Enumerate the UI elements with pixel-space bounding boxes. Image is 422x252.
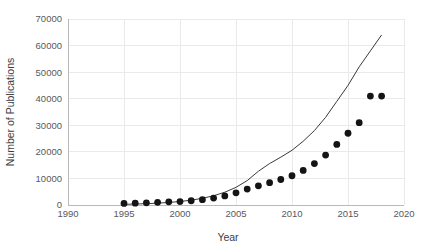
- y-tick-label: 30000: [36, 120, 62, 131]
- x-tick-label: 2015: [337, 208, 358, 219]
- data-point: [233, 189, 240, 196]
- y-tick-label: 70000: [36, 13, 62, 24]
- data-point: [244, 186, 251, 193]
- data-point: [199, 196, 206, 203]
- data-point: [289, 172, 296, 179]
- data-point: [266, 179, 273, 186]
- x-tick-label: 2005: [225, 208, 246, 219]
- data-point: [188, 197, 195, 204]
- data-point: [132, 200, 139, 207]
- y-tick-label: 10000: [36, 173, 62, 184]
- data-point: [221, 193, 228, 200]
- x-tick-label: 1995: [113, 208, 134, 219]
- data-point: [356, 119, 363, 126]
- data-point: [165, 198, 172, 205]
- data-point: [311, 160, 318, 167]
- x-tick-label: 2020: [393, 208, 414, 219]
- data-point: [333, 141, 340, 148]
- x-axis-title: Year: [217, 231, 239, 243]
- x-tick-label: 1990: [57, 208, 78, 219]
- y-tick-label: 40000: [36, 93, 62, 104]
- data-point: [322, 152, 329, 159]
- data-point: [121, 200, 128, 207]
- data-point: [345, 130, 352, 137]
- publications-scatter-chart: 010000200003000040000500006000070000 199…: [0, 0, 422, 252]
- data-point: [154, 199, 161, 206]
- data-point: [378, 93, 385, 100]
- x-tick-label: 2000: [169, 208, 190, 219]
- data-point: [210, 195, 217, 202]
- data-point: [367, 93, 374, 100]
- chart-figure: 010000200003000040000500006000070000 199…: [0, 0, 422, 252]
- data-point: [255, 182, 262, 189]
- data-point: [277, 176, 284, 183]
- data-point: [177, 198, 184, 205]
- y-tick-label: 50000: [36, 67, 62, 78]
- y-tick-label: 60000: [36, 40, 62, 51]
- y-tick-label: 20000: [36, 146, 62, 157]
- y-axis-title: Number of Publications: [4, 58, 16, 167]
- x-tick-label: 2010: [281, 208, 302, 219]
- data-point: [143, 199, 150, 206]
- data-point: [300, 167, 307, 174]
